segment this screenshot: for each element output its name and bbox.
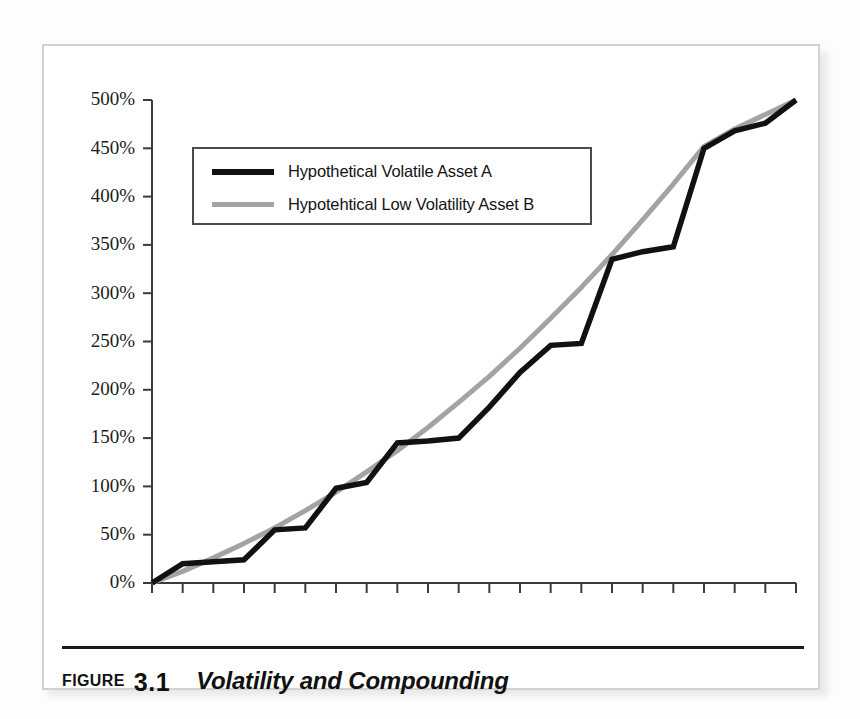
legend-label-low-volatility-asset-b: Hypotehtical Low Volatility Asset B [288,195,534,214]
page-background: 0%50%100%150%200%250%300%350%400%450%500… [0,0,860,719]
line-chart-svg: 0%50%100%150%200%250%300%350%400%450%500… [44,46,822,606]
figure-card: 0%50%100%150%200%250%300%350%400%450%500… [42,44,820,690]
legend-item-low-volatility-asset-b: Hypotehtical Low Volatility Asset B [194,188,590,221]
y-axis-tick-label: 500% [91,88,136,109]
caption-figure-number: 3.1 [134,668,170,697]
y-axis-tick-label: 100% [91,475,136,496]
y-axis-tick-marks [143,100,152,583]
y-axis-tick-labels: 0%50%100%150%200%250%300%350%400%450%500… [91,88,136,592]
y-axis-tick-label: 50% [100,523,135,544]
y-axis-tick-label: 0% [110,571,136,592]
y-axis-tick-label: 150% [91,426,136,447]
y-axis-tick-label: 450% [91,137,136,158]
caption-divider-rule [62,646,804,649]
y-axis-tick-label: 350% [91,233,136,254]
y-axis-tick-label: 400% [91,185,136,206]
legend-label-volatile-asset-a: Hypothetical Volatile Asset A [288,162,492,181]
legend-item-volatile-asset-a: Hypothetical Volatile Asset A [194,155,590,188]
chart-plot-area: 0%50%100%150%200%250%300%350%400%450%500… [44,46,822,606]
y-axis-tick-label: 300% [91,282,136,303]
y-axis-tick-label: 250% [91,330,136,351]
figure-caption: FIGURE 3.1 Volatility and Compounding [62,659,804,703]
caption-title: Volatility and Compounding [196,667,509,695]
chart-legend: Hypothetical Volatile Asset A Hypotehtic… [192,147,592,225]
legend-swatch-low-volatility-asset-b [212,202,274,207]
caption-figure-word: FIGURE [62,672,125,690]
legend-swatch-volatile-asset-a [212,169,274,175]
x-axis-tick-marks [152,583,796,593]
y-axis-tick-label: 200% [91,378,136,399]
